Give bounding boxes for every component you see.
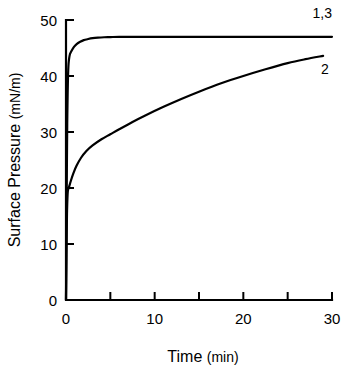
x-axis-tick-label: 20 xyxy=(235,310,252,327)
series-label-2: 2 xyxy=(321,61,329,77)
x-axis-tick-label: 0 xyxy=(62,310,70,327)
y-axis-tick-label: 0 xyxy=(49,292,57,309)
x-axis-title: Time (min) xyxy=(167,348,238,365)
y-axis-title: Surface Pressure (mN/m) xyxy=(6,73,23,248)
y-axis-tick-label: 20 xyxy=(40,180,57,197)
y-axis-tick-label: 50 xyxy=(40,12,57,29)
figure-surface-pressure-vs-time: 0102030405001020301,32Time (min)Surface … xyxy=(0,0,354,375)
series-label-1-3: 1,3 xyxy=(313,5,333,21)
chart-canvas: 0102030405001020301,32Time (min)Surface … xyxy=(0,0,354,375)
x-axis-tick-label: 30 xyxy=(324,310,341,327)
data-curve-2 xyxy=(66,56,323,300)
y-axis-tick-label: 30 xyxy=(40,124,57,141)
x-axis-tick-label: 10 xyxy=(146,310,163,327)
y-axis-tick-label: 10 xyxy=(40,236,57,253)
y-axis-tick-label: 40 xyxy=(40,68,57,85)
data-curve-1-3 xyxy=(66,37,332,300)
